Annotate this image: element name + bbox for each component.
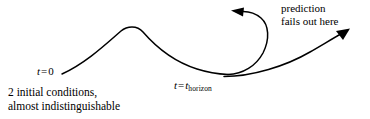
caption-initial-conditions: 2 initial conditions, almost indistingui… bbox=[8, 86, 120, 113]
branch-up-left-path bbox=[228, 11, 268, 74]
branch-up-right-path bbox=[224, 34, 342, 77]
common-trajectory-path bbox=[62, 27, 228, 75]
prediction-horizon-figure: t=0 t=thorizon 2 initial conditions, alm… bbox=[0, 0, 370, 119]
note-prediction-line-2: fails out here bbox=[281, 15, 338, 28]
branch-up-right-arrowhead bbox=[336, 29, 350, 41]
label-t0-value: 0 bbox=[48, 65, 54, 77]
note-prediction-line-1: prediction bbox=[281, 2, 338, 15]
label-t-equals-zero: t=0 bbox=[37, 65, 54, 78]
label-t-equals-t-horizon: t=thorizon bbox=[174, 79, 212, 92]
caption-initial-line-2: almost indistinguishable bbox=[8, 100, 120, 114]
label-thorizon-subscript: horizon bbox=[188, 84, 212, 93]
note-prediction-fails: prediction fails out here bbox=[281, 2, 338, 28]
caption-initial-line-1: 2 initial conditions, bbox=[8, 86, 120, 100]
branch-up-left-arrowhead bbox=[231, 8, 244, 17]
